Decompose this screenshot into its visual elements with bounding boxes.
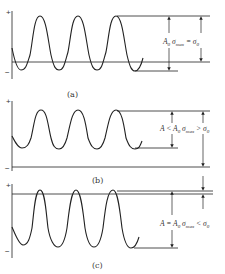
waveform — [12, 190, 139, 248]
plus-sign: + — [6, 181, 11, 190]
minus-sign: − — [5, 164, 10, 173]
minus-sign: − — [5, 247, 10, 256]
caption-a: (a) — [67, 90, 78, 99]
waveform — [12, 110, 142, 149]
minus-sign: − — [5, 68, 10, 77]
caption-c: (c) — [92, 261, 103, 270]
caption-b: (b) — [92, 176, 103, 185]
plus-sign: + — [6, 97, 11, 106]
panel-b: + − A < A0 σmax > σ0 (b) — [5, 97, 210, 185]
amplitude-label: A0 σmax = σ0 — [162, 37, 200, 47]
amplitude-stress-diagram: + − A0 σmax = σ0 (a) + − A < A0 σmax > σ… — [0, 0, 225, 274]
panel-c: + − A = A0 σmax < σ0 (c) — [5, 176, 213, 270]
plus-sign: + — [6, 8, 11, 17]
amplitude-label: A = A0 σmax < σ0 — [159, 219, 210, 229]
waveform — [12, 16, 143, 71]
amplitude-label: A < A0 σmax > σ0 — [159, 124, 210, 134]
panel-a: + − A0 σmax = σ0 (a) — [5, 8, 210, 99]
